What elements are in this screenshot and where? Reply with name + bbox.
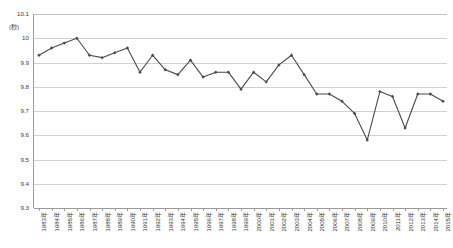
- x-axis-tick-mark: [203, 208, 204, 211]
- x-axis-tick-mark: [342, 208, 343, 211]
- gridline: [34, 184, 447, 185]
- plot-area: [33, 14, 447, 208]
- x-axis-tick-label: 2006年: [332, 212, 338, 232]
- x-axis-tick-mark: [127, 208, 128, 211]
- x-axis-tick-mark: [165, 208, 166, 211]
- x-axis-tick-label: 1987年: [92, 212, 98, 232]
- x-axis-tick-mark: [64, 208, 65, 211]
- y-axis-tick-label: 9.3: [3, 205, 29, 211]
- x-axis-tick-label: 1993年: [168, 212, 174, 232]
- x-axis-tick-mark: [254, 208, 255, 211]
- x-axis-tick-mark: [115, 208, 116, 211]
- x-axis-tick-mark: [355, 208, 356, 211]
- x-axis-tick-label: 2001年: [269, 212, 275, 232]
- x-axis-tick-mark: [317, 208, 318, 211]
- y-axis-tick-label: 10.1: [3, 11, 29, 17]
- x-axis-tick-label: 2004年: [307, 212, 313, 232]
- x-axis-tick-label: 1989年: [117, 212, 123, 232]
- x-axis-tick-label: 2012年: [408, 212, 414, 232]
- y-axis-tick-label: 9.9: [3, 59, 29, 65]
- x-axis-tick-mark: [140, 208, 141, 211]
- x-axis-tick-label: 1983年: [41, 212, 47, 232]
- x-axis-tick-label: 1996年: [206, 212, 212, 232]
- x-axis-tick-label: 2010年: [382, 212, 388, 232]
- x-axis-tick-mark: [241, 208, 242, 211]
- x-axis-tick-label: 1985年: [67, 212, 73, 232]
- x-axis-tick-label: 1998年: [231, 212, 237, 232]
- x-axis-tick-label: 2002年: [281, 212, 287, 232]
- x-axis-tick-label: 1992年: [155, 212, 161, 232]
- x-axis-tick-label: 2000年: [256, 212, 262, 232]
- x-axis-tick-mark: [367, 208, 368, 211]
- x-axis-tick-mark: [90, 208, 91, 211]
- gridline: [34, 63, 447, 64]
- x-axis-tick-mark: [228, 208, 229, 211]
- x-axis-tick-mark: [430, 208, 431, 211]
- x-axis-tick-mark: [77, 208, 78, 211]
- x-axis-tick-mark: [153, 208, 154, 211]
- x-axis-tick-mark: [380, 208, 381, 211]
- x-axis-tick-mark: [292, 208, 293, 211]
- x-axis-tick-mark: [304, 208, 305, 211]
- x-axis-tick-mark: [52, 208, 53, 211]
- x-axis-tick-label: 2005年: [319, 212, 325, 232]
- x-axis-tick-mark: [329, 208, 330, 211]
- x-axis-tick-mark: [279, 208, 280, 211]
- x-axis-tick-mark: [191, 208, 192, 211]
- x-axis-tick-mark: [405, 208, 406, 211]
- x-axis-tick-mark: [393, 208, 394, 211]
- x-axis-tick-label: 1991年: [142, 212, 148, 232]
- gridline: [34, 135, 447, 136]
- y-axis-tick-label: 10: [3, 35, 29, 41]
- x-axis-tick-label: 2009年: [370, 212, 376, 232]
- y-axis-tick-label: 9.8: [3, 84, 29, 90]
- y-axis-tick-label: 9.6: [3, 132, 29, 138]
- x-axis-tick-label: 1997年: [218, 212, 224, 232]
- y-axis-tick-label: 9.4: [3, 181, 29, 187]
- x-axis-tick-label: 2014年: [433, 212, 439, 232]
- gridline: [34, 160, 447, 161]
- x-axis-tick-mark: [216, 208, 217, 211]
- x-axis-tick-label: 2011年: [395, 212, 401, 231]
- x-axis-tick-label: 1988年: [105, 212, 111, 232]
- y-axis-tick-label: 9.7: [3, 108, 29, 114]
- gridline: [34, 38, 447, 39]
- x-axis-tick-mark: [102, 208, 103, 211]
- x-axis-tick-label: 2008年: [357, 212, 363, 232]
- x-axis-tick-label: 1994年: [180, 212, 186, 232]
- x-axis-tick-label: 1986年: [79, 212, 85, 232]
- x-axis-tick-mark: [443, 208, 444, 211]
- gridline: [34, 111, 447, 112]
- x-axis-tick-mark: [178, 208, 179, 211]
- x-axis-tick-label: 1999年: [243, 212, 249, 232]
- x-axis-tick-mark: [39, 208, 40, 211]
- y-axis-unit-label: (秒): [9, 24, 19, 30]
- x-axis-tick-label: 1984年: [54, 212, 60, 232]
- x-axis-tick-label: 1995年: [193, 212, 199, 232]
- gridline: [34, 87, 447, 88]
- x-axis-tick-label: 2007年: [344, 212, 350, 232]
- x-axis-tick-label: 2013年: [420, 212, 426, 232]
- y-axis-tick-label: 9.5: [3, 156, 29, 162]
- x-axis-tick-label: 2015年: [445, 212, 451, 232]
- x-axis-tick-mark: [418, 208, 419, 211]
- gridline: [34, 14, 447, 15]
- x-axis-tick-mark: [266, 208, 267, 211]
- x-axis-tick-label: 2003年: [294, 212, 300, 232]
- line-chart: (秒) 10.1109.99.89.79.69.59.49.3 1983年198…: [0, 0, 453, 248]
- x-axis-tick-label: 1990年: [130, 212, 136, 232]
